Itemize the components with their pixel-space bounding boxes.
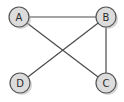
node-label-b: B bbox=[103, 12, 110, 23]
node-a: A bbox=[9, 7, 31, 29]
node-label-c: C bbox=[103, 78, 110, 89]
graph-diagram: A B C D bbox=[0, 0, 124, 102]
edges bbox=[19, 17, 106, 83]
node-b: B bbox=[96, 7, 118, 29]
node-label-a: A bbox=[16, 12, 23, 23]
node-label-d: D bbox=[16, 78, 24, 89]
node-c: C bbox=[96, 73, 118, 95]
